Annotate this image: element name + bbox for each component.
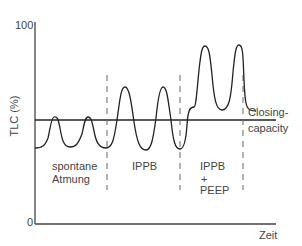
tlc-curve <box>35 45 256 150</box>
x-axis-label: Zeit <box>259 229 277 241</box>
closing-capacity-label-line1: Closing- <box>248 106 288 118</box>
phase-label-ippb-peep-line1: IPPB <box>200 160 225 172</box>
closing-capacity-label-line2: capacity <box>248 122 288 134</box>
y-tick-100: 100 <box>15 19 33 31</box>
phase-label-ippb-peep-line3: PEEP <box>200 184 229 196</box>
y-tick-0: 0 <box>27 216 33 228</box>
phase-label-spontaneous-line2: Atmung <box>52 173 90 185</box>
phase-label-spontaneous-line1: spontane <box>52 160 97 172</box>
phase-label-ippb: IPPB <box>132 160 157 172</box>
y-axis-label: TLC (%) <box>8 96 20 137</box>
